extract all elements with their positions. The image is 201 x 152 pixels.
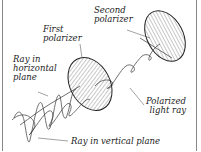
label-first-polarizer: First polarizer [43,25,82,43]
label-polarized-ray: Polarized light ray [146,97,186,115]
first-polarizer [59,50,121,118]
label-ray-horizontal: Ray in horizontal plane [13,55,57,82]
label-ray-vertical: Ray in vertical plane [71,137,160,146]
label-second-polarizer: Second polarizer [94,6,133,24]
